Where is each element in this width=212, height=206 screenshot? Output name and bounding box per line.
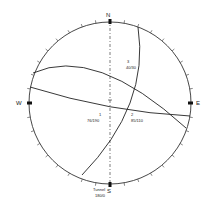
degree-tick: [190, 88, 193, 89]
degree-tick: [186, 131, 189, 132]
tunnel-label: Tunnel: [93, 187, 105, 192]
plane-1-number: 1: [99, 112, 102, 117]
degree-tick: [46, 155, 48, 157]
degree-tick: [81, 24, 82, 27]
great-circle-1: [82, 27, 140, 175]
east-label: E: [196, 100, 200, 106]
plane-3-value: 40/30: [126, 65, 137, 70]
tunnel-value: 180/0: [95, 193, 106, 198]
north-label: N: [106, 12, 110, 18]
south-label: S: [107, 188, 111, 194]
stereonet-diagram: N S W E 3 40/30 1 76/190 2 85/110 Tunnel…: [0, 0, 212, 206]
degree-tick: [151, 173, 153, 176]
degree-tick: [172, 49, 174, 51]
plane-2-value: 85/110: [131, 118, 144, 123]
degree-tick: [56, 165, 58, 167]
degree-tick: [190, 117, 193, 118]
degree-tick: [186, 74, 189, 75]
south-marker: [109, 182, 112, 187]
plane-1-value: 76/190: [87, 118, 100, 123]
degree-tick: [56, 39, 58, 41]
degree-tick: [95, 20, 96, 23]
degree-tick: [95, 183, 96, 186]
degree-tick: [162, 39, 164, 41]
degree-tick: [27, 88, 30, 89]
degree-tick: [31, 131, 34, 132]
degree-tick: [124, 20, 125, 23]
west-label: W: [16, 100, 22, 106]
degree-tick: [68, 173, 70, 176]
degree-tick: [68, 30, 70, 33]
degree-tick: [81, 179, 82, 182]
degree-tick: [27, 117, 30, 118]
degree-tick: [31, 74, 34, 75]
plane-2-number: 2: [131, 112, 134, 117]
degree-tick: [37, 61, 40, 63]
degree-tick: [46, 49, 48, 51]
degree-tick: [138, 24, 139, 27]
east-marker: [188, 102, 193, 105]
degree-tick: [162, 165, 164, 167]
degree-tick: [37, 144, 40, 146]
degree-tick: [138, 179, 139, 182]
degree-tick: [151, 30, 153, 33]
great-circle-3: [33, 66, 186, 128]
plane-3-number: 3: [127, 59, 130, 64]
degree-tick: [124, 183, 125, 186]
degree-tick: [180, 61, 183, 63]
north-marker: [109, 19, 112, 24]
west-marker: [27, 102, 32, 105]
degree-tick: [172, 155, 174, 157]
degree-tick: [180, 144, 183, 146]
